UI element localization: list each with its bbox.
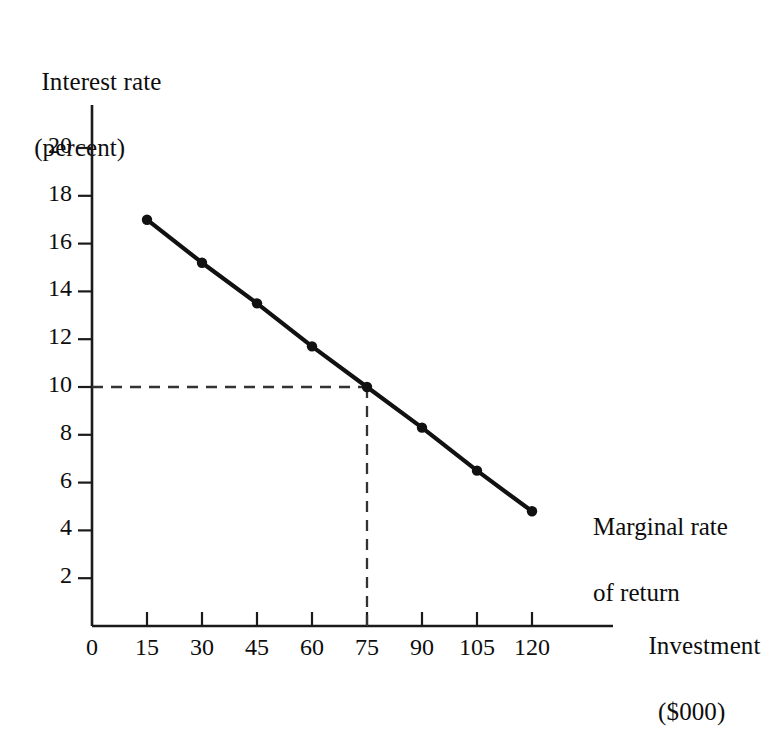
y-axis-tick-label: 12 <box>22 323 72 350</box>
x-axis-tick-label: 90 <box>392 634 452 661</box>
x-axis-tick-label: 30 <box>172 634 232 661</box>
x-axis-tick-label: 60 <box>282 634 342 661</box>
x-axis-tick-label: 105 <box>447 634 507 661</box>
y-axis-tick-label: 2 <box>22 562 72 589</box>
y-axis-ticks <box>78 148 92 578</box>
y-axis-tick-label: 6 <box>22 467 72 494</box>
y-axis-tick-label: 16 <box>22 228 72 255</box>
x-axis-tick-label: 75 <box>337 634 397 661</box>
y-axis-tick-label: 8 <box>22 419 72 446</box>
y-axis-tick-label: 14 <box>22 275 72 302</box>
data-point-marker <box>417 422 427 432</box>
y-axis-tick-label: 18 <box>22 180 72 207</box>
data-point-marker <box>197 258 207 268</box>
data-point-marker <box>527 506 537 516</box>
y-axis-tick-label: 4 <box>22 514 72 541</box>
axis-lines <box>92 105 613 626</box>
x-axis-tick-label: 45 <box>227 634 287 661</box>
data-point-marker <box>472 465 482 475</box>
guide-lines <box>92 387 367 626</box>
y-axis-tick-label: 10 <box>22 371 72 398</box>
x-axis-tick-label: 0 <box>62 634 122 661</box>
x-axis-tick-label: 120 <box>502 634 562 661</box>
x-axis-tick-label: 15 <box>117 634 177 661</box>
x-axis-ticks <box>147 612 532 626</box>
data-point-marker <box>362 382 372 392</box>
data-point-marker <box>252 298 262 308</box>
data-point-marker <box>142 215 152 225</box>
data-point-marker <box>307 341 317 351</box>
y-axis-tick-label: 20 <box>22 132 72 159</box>
